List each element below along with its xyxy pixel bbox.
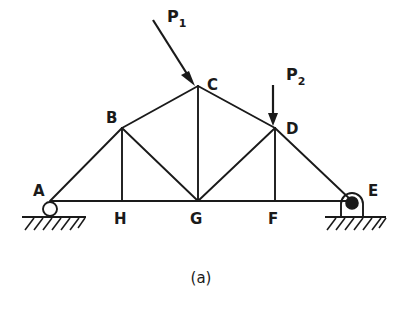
- pin-circle-icon: [346, 197, 358, 209]
- ground-hatching-E: [327, 218, 386, 230]
- load-P1-base: P: [167, 7, 179, 26]
- member-D-E: [275, 128, 352, 201]
- ground-hatching-A: [25, 218, 85, 230]
- load-P2-subscript: 2: [298, 75, 306, 88]
- node-label-C: C: [207, 76, 218, 94]
- node-label-A: A: [33, 182, 45, 200]
- member-D-G-diagonal: [198, 128, 275, 201]
- load-arrow-P1: P1: [153, 7, 195, 86]
- member-A-B: [50, 128, 122, 201]
- truss-diagram-canvas: P1 P2 A B C D E F G H (a): [0, 0, 403, 310]
- member-B-C: [122, 86, 198, 128]
- load-P2-label: P2: [286, 65, 305, 88]
- load-arrow-P2: P2: [268, 65, 305, 126]
- node-labels: A B C D E F G H: [33, 76, 378, 228]
- node-label-G: G: [190, 210, 202, 228]
- node-label-D: D: [286, 120, 298, 138]
- node-label-B: B: [106, 109, 117, 127]
- roller-circle-icon: [43, 202, 57, 216]
- support-A-roller: [22, 202, 86, 230]
- node-label-H: H: [114, 210, 127, 228]
- figure-caption: (a): [191, 269, 212, 287]
- load-P1-subscript: 1: [179, 17, 187, 30]
- load-P2-base: P: [286, 65, 298, 84]
- member-B-G-diagonal: [122, 128, 198, 201]
- node-label-F: F: [268, 210, 278, 228]
- truss-members: [50, 86, 352, 201]
- load-P1-label: P1: [167, 7, 186, 30]
- node-label-E: E: [368, 182, 378, 200]
- load-P1-arrowhead: [181, 71, 195, 86]
- truss-figure: P1 P2 A B C D E F G H (a): [0, 0, 403, 310]
